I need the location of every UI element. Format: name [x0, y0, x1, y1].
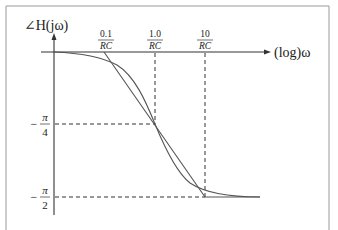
x-tick-10: 10 RC: [197, 29, 213, 51]
phase-plot: ∠H(jω) (log)ω 0.1 RC 1.0 RC 10 RC − π 4 …: [0, 0, 338, 230]
x-axis-arrow-icon: [264, 50, 271, 55]
svg-text:π: π: [42, 184, 48, 196]
svg-text:RC: RC: [99, 41, 113, 51]
x-tick-1.0: 1.0 RC: [147, 29, 163, 51]
svg-text:10: 10: [200, 29, 210, 39]
svg-text:π: π: [42, 111, 48, 123]
y-axis-label: ∠H(jω): [24, 18, 69, 34]
x-axis-label: (log)ω: [274, 45, 310, 61]
y-tick-minus-pi-over-2: − π 2: [31, 184, 50, 211]
svg-text:−: −: [31, 190, 38, 204]
svg-text:2: 2: [42, 199, 48, 211]
y-tick-minus-pi-over-4: − π 4: [31, 111, 50, 138]
svg-text:1.0: 1.0: [149, 29, 161, 39]
x-tick-0.1: 0.1 RC: [98, 29, 114, 51]
svg-text:0.1: 0.1: [100, 29, 112, 39]
svg-text:RC: RC: [198, 41, 212, 51]
y-axis-arrow-icon: [52, 33, 57, 40]
svg-text:−: −: [31, 117, 38, 131]
diagram-frame: ∠H(jω) (log)ω 0.1 RC 1.0 RC 10 RC − π 4 …: [0, 0, 338, 230]
svg-text:RC: RC: [148, 41, 162, 51]
svg-text:4: 4: [42, 126, 48, 138]
